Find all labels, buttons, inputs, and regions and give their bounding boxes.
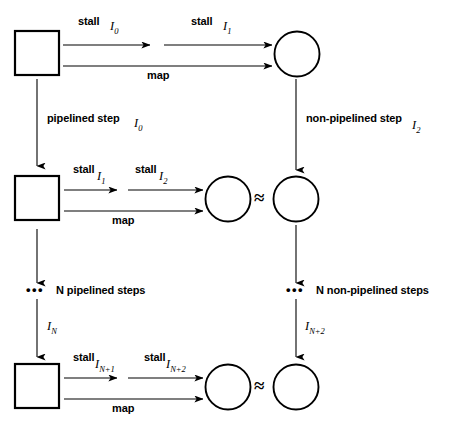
n-non-pipelined-steps-instr: IN+2 <box>305 320 325 335</box>
instr-sub: 1 <box>227 26 231 36</box>
stall-label-bottom-1: stall <box>73 352 95 363</box>
ellipsis-right: ••• <box>286 283 304 296</box>
state-circle-middle-left <box>206 177 251 222</box>
instr-sub: N+2 <box>170 364 186 374</box>
instr-sub: 2 <box>163 176 167 186</box>
instr-sub: N+1 <box>99 364 115 374</box>
map-label-middle: map <box>112 215 134 226</box>
instr-sub: N <box>51 326 57 336</box>
n-pipelined-steps-label: N pipelined steps <box>56 285 145 296</box>
stall-label-middle-2: stall <box>135 164 157 175</box>
state-square-top <box>15 31 59 75</box>
instr-sub: 2 <box>416 125 420 135</box>
stall-instr-bottom-2: IN+2 <box>166 358 186 373</box>
n-non-pipelined-steps-label: N non-pipelined steps <box>316 285 429 296</box>
state-circle-bottom-left <box>206 365 251 410</box>
pipelined-step-instr-1: I0 <box>134 117 142 132</box>
stall-label-middle-1: stall <box>73 164 95 175</box>
non-pipelined-step-instr-1: I2 <box>412 119 420 134</box>
equivalence-symbol-middle: ≈ <box>254 188 264 207</box>
state-circle-middle-right <box>274 177 319 222</box>
pipelined-step-label-1: pipelined step <box>47 113 120 124</box>
instr-sub: 0 <box>138 123 142 133</box>
instr-sub: 1 <box>101 176 105 186</box>
stall-instr-top-1: I0 <box>110 20 118 35</box>
map-label-top: map <box>147 70 169 81</box>
diagram-vector-layer <box>0 0 456 432</box>
stall-label-top-1: stall <box>78 16 100 27</box>
ellipsis-left: ••• <box>26 283 44 296</box>
stall-label-top-2: stall <box>191 16 213 27</box>
stall-instr-bottom-1: IN+1 <box>95 358 115 373</box>
n-pipelined-steps-instr: IN <box>47 320 57 335</box>
non-pipelined-step-label-1: non-pipelined step <box>306 113 402 124</box>
stall-instr-top-2: I1 <box>223 20 231 35</box>
state-circle-top <box>275 32 320 77</box>
stall-instr-middle-1: I1 <box>97 170 105 185</box>
stall-label-bottom-2: stall <box>144 352 166 363</box>
diagram-canvas: stall I0 stall I1 map pipelined step I0 … <box>0 0 456 432</box>
state-circle-bottom-right <box>274 365 319 410</box>
instr-sub: 0 <box>114 26 118 36</box>
equivalence-symbol-bottom: ≈ <box>254 376 264 395</box>
map-label-bottom: map <box>112 403 134 414</box>
state-square-bottom <box>15 364 59 408</box>
instr-sub: N+2 <box>309 326 325 336</box>
stall-instr-middle-2: I2 <box>159 170 167 185</box>
state-square-middle <box>15 176 59 220</box>
